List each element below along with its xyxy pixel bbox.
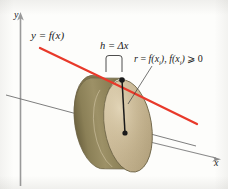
thickness-label-text: h = Δx [100,40,128,51]
curve-point-dot [119,77,125,83]
disk-method-figure: y = f(x) h = Δx r = f(xi), f(xi) ⩾ 0 x y [0,0,228,189]
radius-label: r = f(xi), f(xi) ⩾ 0 [134,54,203,66]
y-axis-label-text: y [14,9,18,20]
disk-center-dot [122,130,127,135]
x-axis [150,142,221,162]
curve-label-text: y = f(x) [31,29,64,41]
representative-disk [68,72,159,177]
thickness-bracket [106,56,122,73]
x-axis-label-text: x [214,157,218,168]
radius-label-fn: f(x [149,53,160,64]
radius-label-eq: = [138,53,149,64]
y-axis-label: y [14,10,18,20]
radius-cond-fn: f(x [169,53,180,64]
radius-zero: 0 [198,53,203,64]
curve-label: y = f(x) [31,30,64,41]
thickness-label: h = Δx [100,41,128,52]
x-axis-label: x [214,158,218,168]
radius-geq-symbol: ⩾ [185,53,198,64]
